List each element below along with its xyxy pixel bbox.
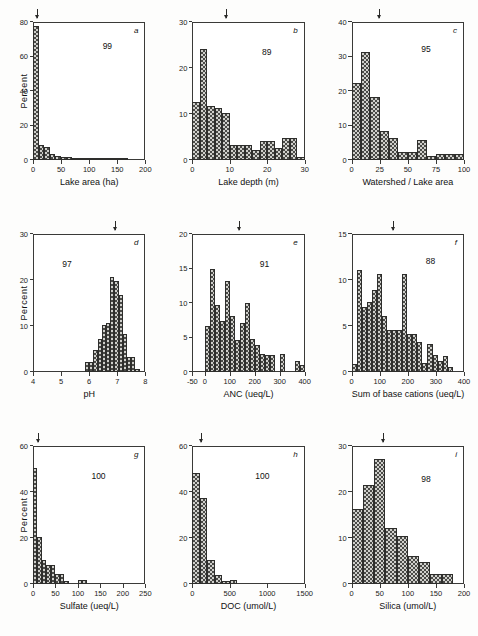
x-tick-label: 400 (458, 378, 471, 386)
x-tick-mark (408, 160, 409, 164)
sample-count-annotation: 97 (62, 259, 71, 269)
x-tick-mark (280, 372, 281, 376)
x-tick-label: 50 (57, 166, 65, 174)
x-tick-label: 500 (224, 590, 237, 598)
y-tick-label: 40 (338, 18, 346, 26)
x-tick-mark (352, 372, 353, 376)
x-tick-label: 200 (139, 166, 152, 174)
histogram-bar (222, 113, 229, 160)
y-axis-label: Percent (19, 73, 29, 108)
histogram-bar (200, 498, 207, 584)
panel-letter-label: d (134, 238, 138, 247)
x-tick-mark (267, 584, 268, 588)
histogram-bar (275, 148, 282, 160)
x-tick-label: 0 (190, 590, 194, 598)
x-tick-label: 200 (117, 590, 130, 598)
x-tick-label: 25 (376, 166, 384, 174)
y-tick-mark (30, 445, 34, 446)
y-tick-label: 20 (20, 534, 28, 542)
histogram-bar (370, 97, 379, 160)
x-tick-mark (123, 584, 124, 588)
histogram-bar (380, 131, 389, 160)
y-tick-label: 20 (20, 122, 28, 130)
histogram-bar (282, 138, 289, 160)
y-tick-label: 10 (338, 534, 346, 542)
y-tick-label: 10 (179, 110, 187, 118)
y-tick-mark (189, 302, 193, 303)
panel-b: 01020300102030Lake depth (m)b89 (159, 0, 318, 212)
histogram-bar (215, 108, 222, 160)
histogram-bar (33, 26, 39, 160)
y-tick-label: 20 (20, 276, 28, 284)
sample-count-annotation: 95 (421, 44, 430, 54)
x-tick-mark (352, 160, 353, 164)
panel-c: 0102030400255075100Watershed / Lake area… (319, 0, 478, 212)
x-axis-label: Lake depth (m) (192, 177, 304, 187)
panel-g: 0204060050100150200250Sulfate (ueq/L)Per… (0, 424, 159, 636)
histogram-bar (363, 485, 374, 584)
histogram-bars (352, 234, 464, 372)
histogram-bars (33, 446, 145, 584)
y-tick-mark (189, 113, 193, 114)
histogram-bar (419, 562, 430, 584)
panel-letter-label: e (293, 238, 297, 247)
histogram-bar (192, 473, 199, 584)
x-tick-label: 4 (31, 378, 35, 386)
y-tick-mark (30, 537, 34, 538)
x-tick-label: 30 (300, 166, 308, 174)
y-tick-mark (189, 491, 193, 492)
x-axis-label: Sum of base cations (ueq/L) (352, 389, 464, 399)
x-tick-mark (380, 584, 381, 588)
y-tick-mark (348, 537, 352, 538)
x-tick-mark (89, 160, 90, 164)
x-tick-mark (100, 584, 101, 588)
x-tick-label: 10 (226, 166, 234, 174)
histogram-bar (222, 581, 229, 584)
panel-letter-label: f (455, 238, 457, 247)
y-tick-label: 15 (338, 230, 346, 238)
histogram-bar (200, 49, 207, 160)
x-tick-label: 150 (111, 166, 124, 174)
x-tick-mark (33, 372, 34, 376)
y-tick-label: 0 (342, 580, 346, 588)
x-tick-mark (255, 372, 256, 376)
histogram-bars (192, 22, 304, 160)
y-tick-label: 40 (179, 488, 187, 496)
y-tick-mark (348, 21, 352, 22)
x-tick-mark (305, 372, 306, 376)
x-tick-label: 150 (94, 590, 107, 598)
x-tick-mark (192, 160, 193, 164)
x-tick-mark (436, 372, 437, 376)
x-tick-mark (436, 160, 437, 164)
x-tick-mark (55, 584, 56, 588)
histogram-bar (297, 157, 304, 160)
y-tick-label: 0 (183, 368, 187, 376)
plot-area-a: 020406080050100150200Lake area (ha)Perce… (33, 22, 145, 160)
histogram-bar (64, 581, 68, 584)
x-tick-mark (380, 160, 381, 164)
x-tick-mark (230, 160, 231, 164)
x-tick-label: 400 (298, 378, 311, 386)
x-tick-label: 0 (31, 590, 35, 598)
x-tick-mark (78, 584, 79, 588)
y-tick-label: 60 (20, 442, 28, 450)
sample-count-annotation: 99 (103, 41, 112, 51)
sample-count-annotation: 89 (262, 47, 271, 57)
y-tick-mark (189, 21, 193, 22)
histogram-bar (408, 556, 419, 584)
sample-count-annotation: 100 (91, 471, 105, 481)
y-tick-mark (189, 268, 193, 269)
y-tick-label: 0 (24, 156, 28, 164)
x-tick-mark (464, 372, 465, 376)
panel-letter-label: a (134, 26, 138, 35)
figure-panel-grid: 020406080050100150200Lake area (ha)Perce… (0, 0, 478, 636)
plot-area-e: 05101520-500100200300400ANC (ueq/L)e91 (192, 234, 304, 372)
panel-letter-label: c (453, 26, 457, 35)
x-tick-label: 100 (83, 166, 96, 174)
histogram-bar (135, 369, 139, 372)
y-tick-label: 20 (338, 488, 346, 496)
x-tick-mark (192, 372, 193, 376)
x-tick-mark (436, 584, 437, 588)
y-axis-label: Percent (19, 285, 29, 320)
x-tick-label: 300 (430, 378, 443, 386)
